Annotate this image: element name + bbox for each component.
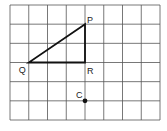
point-c	[83, 98, 88, 103]
grid-diagram: P Q R C	[0, 0, 167, 131]
label-p: P	[87, 15, 93, 25]
label-c: C	[76, 90, 83, 100]
label-q: Q	[19, 65, 26, 75]
label-r: R	[87, 66, 94, 76]
